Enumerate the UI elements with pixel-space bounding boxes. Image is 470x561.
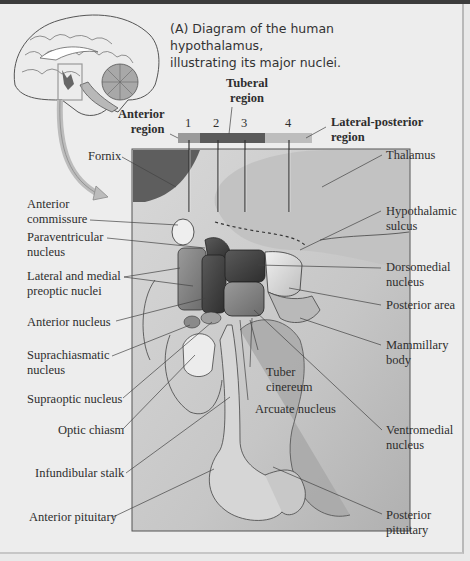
label-dorsomedial-nucleus: Dorsomedial nucleus — [386, 260, 451, 290]
label-hypothalamic-sulcus: Hypothalamic sulcus — [386, 204, 457, 234]
label-posterior-area: Posterior area — [386, 298, 455, 313]
label-lateral-posterior-region: Lateral-posterior region — [331, 115, 423, 145]
section-number-2: 2 — [213, 116, 219, 131]
label-ventromedial-nucleus: Ventromedial nucleus — [386, 423, 453, 453]
label-anterior-pituitary: Anterior pituitary — [29, 510, 117, 525]
label-preoptic-nuclei: Lateral and medial preoptic nuclei — [27, 269, 121, 299]
label-anterior-region: Anterior region — [118, 107, 165, 137]
label-supraoptic-nucleus: Supraoptic nucleus — [27, 392, 122, 407]
label-posterior-pituitary: Posterior pituitary — [386, 508, 431, 538]
section-number-4: 4 — [285, 116, 291, 131]
label-suprachiasmatic-nucleus: Suprachiasmatic nucleus — [27, 348, 110, 378]
label-tuber-cinereum: Tuber cinereum — [266, 365, 313, 395]
caption-line-1: (A) Diagram of the human hypothalamus, — [170, 20, 420, 54]
caption-line-2: illustrating its major nuclei. — [170, 54, 420, 71]
figure-caption: (A) Diagram of the human hypothalamus, i… — [170, 20, 420, 71]
brain-thumbnail — [14, 15, 159, 115]
section-number-3: 3 — [241, 116, 247, 131]
label-mammillary-body: Mammillary body — [386, 338, 449, 368]
label-thalamus: Thalamus — [386, 148, 435, 163]
label-anterior-commissure: Anterior commissure — [27, 197, 87, 227]
section-number-1: 1 — [185, 116, 191, 131]
label-arcuate-nucleus: Arcuate nucleus — [255, 402, 336, 417]
label-fornix: Fornix — [88, 149, 121, 164]
label-anterior-nucleus: Anterior nucleus — [27, 315, 111, 330]
label-tuberal-region: Tuberal region — [226, 76, 268, 106]
label-infundibular-stalk: Infundibular stalk — [35, 466, 124, 481]
label-optic-chiasm: Optic chiasm — [58, 423, 124, 438]
label-paraventricular-nucleus: Paraventricular nucleus — [27, 230, 103, 260]
